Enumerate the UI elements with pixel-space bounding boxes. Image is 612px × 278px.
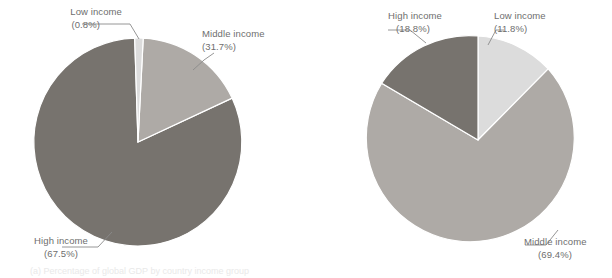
figure-caption-partial: (a) Percentage of global GDP by country …	[30, 266, 249, 276]
right-label-low-income: Low income (11.8%)	[494, 10, 586, 35]
left-label-high-income-value: (67.5%)	[2, 248, 88, 261]
left-label-middle-income-name: Middle income	[202, 28, 302, 41]
right-label-low-income-name: Low income	[494, 10, 586, 23]
pie-chart-figure: Low income (0.8%) Middle income (31.7%) …	[0, 0, 612, 278]
left-label-low-income-name: Low income	[26, 6, 122, 19]
left-label-high-income: High income (67.5%)	[2, 235, 88, 260]
right-label-high-income-name: High income	[352, 10, 442, 23]
right-label-low-income-value: (11.8%)	[494, 23, 586, 36]
left-label-high-income-name: High income	[2, 235, 88, 248]
right-label-middle-income: Middle income (69.4%)	[524, 236, 612, 261]
left-label-middle-income-value: (31.7%)	[202, 41, 302, 54]
left-pie-panel: Low income (0.8%) Middle income (31.7%) …	[0, 0, 306, 278]
left-label-middle-income: Middle income (31.7%)	[202, 28, 302, 53]
left-label-low-income-value: (0.8%)	[26, 19, 122, 32]
left-label-low-income: Low income (0.8%)	[26, 6, 122, 31]
right-label-middle-income-name: Middle income	[524, 236, 612, 249]
right-label-high-income: High income (18.8%)	[352, 10, 442, 35]
right-label-middle-income-value: (69.4%)	[524, 249, 612, 262]
right-label-high-income-value: (18.8%)	[352, 23, 442, 36]
